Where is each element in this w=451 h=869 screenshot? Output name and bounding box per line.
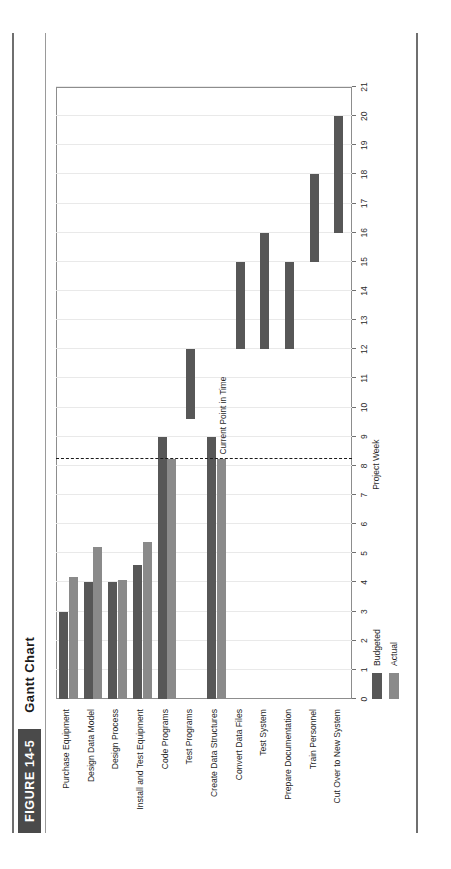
axis-tick xyxy=(352,552,356,553)
task-label: Test System xyxy=(258,709,268,869)
figure-page: FIGURE 14-5 Gantt Chart Current Point in… xyxy=(0,0,451,869)
axis-tick xyxy=(352,86,356,87)
gantt-bar-actual xyxy=(93,547,102,699)
axis-tick xyxy=(352,581,356,582)
axis-tick-label: 9 xyxy=(359,426,369,448)
figure-title: Gantt Chart xyxy=(18,637,41,729)
axis-tick xyxy=(352,377,356,378)
axis-tick-label: 4 xyxy=(359,571,369,593)
task-label: Code Programs xyxy=(160,709,170,869)
current-point-label: Current Point in Time xyxy=(218,377,228,455)
axis-tick-label: 19 xyxy=(359,134,369,156)
axis-tick xyxy=(352,669,356,670)
axis-tick-label: 13 xyxy=(359,309,369,331)
axis-tick-label: 3 xyxy=(359,601,369,623)
gantt-bar-budgeted xyxy=(84,582,93,699)
task-label: Test Programs xyxy=(184,709,194,869)
gantt-bar-budgeted xyxy=(236,262,245,349)
axis-tick xyxy=(352,115,356,116)
axis-tick-label: 7 xyxy=(359,484,369,506)
gridline xyxy=(56,319,352,320)
gantt-bar-budgeted xyxy=(207,437,216,699)
axis-tick xyxy=(352,698,356,699)
gantt-bar-budgeted xyxy=(186,349,195,419)
axis-tick xyxy=(352,407,356,408)
axis-tick-label: 1 xyxy=(359,659,369,681)
axis-tick xyxy=(352,203,356,204)
gantt-chart: Current Point in Time 012345678910111213… xyxy=(56,87,352,699)
axis-tick-label: 14 xyxy=(359,280,369,302)
gridline xyxy=(56,465,352,466)
gantt-bar-actual xyxy=(167,459,176,699)
legend-item: Budgeted xyxy=(372,629,382,699)
gridline xyxy=(56,523,352,524)
gantt-bar-budgeted xyxy=(334,116,343,233)
axis-tick xyxy=(352,611,356,612)
axis-tick-label: 2 xyxy=(359,630,369,652)
gridline xyxy=(56,144,352,145)
axis-tick-label: 5 xyxy=(359,542,369,564)
axis-tick-label: 0 xyxy=(359,688,369,710)
gridline xyxy=(56,115,352,116)
axis-tick xyxy=(352,232,356,233)
gantt-bar-budgeted xyxy=(59,612,68,699)
gantt-bar-budgeted xyxy=(260,233,269,350)
axis-tick-label: 10 xyxy=(359,397,369,419)
gridline xyxy=(56,436,352,437)
task-label: Design Data Model xyxy=(86,709,96,869)
figure-number-badge: FIGURE 14-5 xyxy=(18,729,41,833)
chart-legend: BudgetedActual xyxy=(372,629,399,699)
gantt-bar-budgeted xyxy=(310,174,319,261)
axis-tick xyxy=(352,348,356,349)
gridline xyxy=(56,290,352,291)
legend-label: Actual xyxy=(389,642,399,666)
task-label: Design Process xyxy=(110,709,120,869)
x-axis-title: Project Week xyxy=(371,439,381,489)
legend-swatch xyxy=(389,673,399,699)
bottom-rule xyxy=(416,33,418,833)
task-label: Create Data Structures xyxy=(209,709,219,869)
axis-tick xyxy=(352,144,356,145)
task-label: Install and Test Equipment xyxy=(135,709,145,869)
legend-item: Actual xyxy=(389,629,399,699)
axis-tick xyxy=(352,465,356,466)
gridline xyxy=(56,203,352,204)
top-rule xyxy=(12,33,14,833)
axis-tick xyxy=(352,494,356,495)
task-label: Convert Data Files xyxy=(234,709,244,869)
axis-tick-label: 11 xyxy=(359,367,369,389)
rotated-figure-canvas: FIGURE 14-5 Gantt Chart Current Point in… xyxy=(0,0,451,869)
task-label: Prepare Documentation xyxy=(283,709,293,869)
axis-tick-label: 12 xyxy=(359,338,369,360)
axis-tick xyxy=(352,640,356,641)
gantt-bar-budgeted xyxy=(285,262,294,349)
axis-tick-label: 17 xyxy=(359,193,369,215)
legend-swatch xyxy=(372,673,382,699)
task-label: Train Personnel xyxy=(308,709,318,869)
axis-tick-label: 16 xyxy=(359,222,369,244)
header-rule xyxy=(45,33,46,833)
axis-tick xyxy=(352,523,356,524)
gantt-bar-budgeted xyxy=(133,565,142,699)
axis-tick-label: 21 xyxy=(359,76,369,98)
task-label: Cut Over to New System xyxy=(332,709,342,869)
gridline xyxy=(56,173,352,174)
current-point-line xyxy=(56,458,352,459)
gridline xyxy=(56,407,352,408)
gridline xyxy=(56,348,352,349)
axis-tick-label: 6 xyxy=(359,513,369,535)
gridline xyxy=(56,232,352,233)
gridline xyxy=(56,377,352,378)
gantt-bar-budgeted xyxy=(108,582,117,699)
gridline xyxy=(56,261,352,262)
gantt-bar-budgeted xyxy=(158,437,167,699)
axis-tick-label: 18 xyxy=(359,163,369,185)
gantt-bar-actual xyxy=(217,459,226,699)
task-label: Purchase Equipment xyxy=(61,709,71,869)
gantt-bar-actual xyxy=(118,580,127,699)
axis-tick-label: 15 xyxy=(359,251,369,273)
axis-tick xyxy=(352,436,356,437)
axis-tick-label: 8 xyxy=(359,455,369,477)
figure-header: FIGURE 14-5 Gantt Chart xyxy=(18,637,41,833)
axis-tick xyxy=(352,319,356,320)
